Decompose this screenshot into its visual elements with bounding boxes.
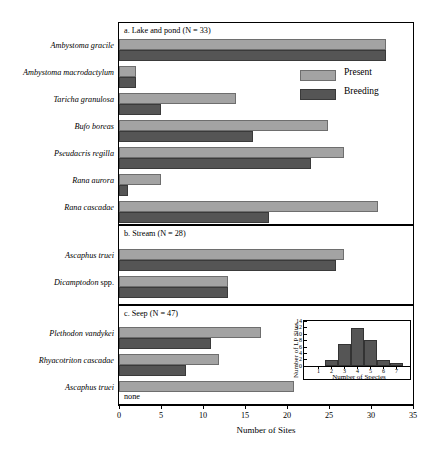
inset-ytickmark-14	[304, 321, 307, 322]
inset-bar-3	[338, 344, 351, 366]
bar-breeding-rana-cascadae	[119, 212, 269, 223]
bar-present-rana-cascadae	[119, 201, 378, 212]
x-tickmark-5	[161, 405, 162, 409]
x-tickmark-30	[371, 405, 372, 409]
x-ticklabel-0: 0	[104, 411, 134, 420]
x-ticklabel-10: 10	[188, 411, 218, 420]
bar-breeding-pseudacris-regilla	[119, 158, 311, 169]
x-ticklabel-20: 20	[272, 411, 302, 420]
inset-bar-5	[364, 340, 377, 366]
bar-breeding-dicamptodon-spp	[119, 287, 228, 298]
x-tickmark-35	[413, 405, 414, 409]
inset-ytickmark-4	[304, 353, 307, 354]
y-label-rhyacotriton-cascadae: Rhyacotriton cascadae	[0, 356, 114, 365]
bar-present-rhyacotriton-cascadae	[119, 354, 219, 365]
x-axis-line	[118, 405, 414, 406]
x-tickmark-0	[119, 405, 120, 409]
x-tickmark-15	[245, 405, 246, 409]
legend-swatch-present	[300, 70, 336, 81]
bar-present-ascaphus-truei-seep	[119, 381, 294, 392]
x-axis-title: Number of Sites	[166, 425, 366, 435]
y-label-ascaphus-truei-seep: Ascaphus truei	[0, 383, 114, 392]
bar-breeding-ascaphus-truei-stream	[119, 260, 336, 271]
y-label-bufo-boreas: Bufo boreas	[0, 122, 114, 131]
x-ticklabel-30: 30	[356, 411, 386, 420]
x-tickmark-20	[287, 405, 288, 409]
inset-y-axis-title: Number of LP Sites	[292, 322, 300, 378]
y-label-ambystoma-gracile: Ambystoma gracile	[0, 41, 114, 50]
bar-present-rana-aurora	[119, 174, 161, 185]
x-ticklabel-15: 15	[230, 411, 260, 420]
bar-present-ambystoma-macrodactylum	[119, 66, 136, 77]
bar-present-ambystoma-gracile	[119, 39, 386, 50]
inset-ytickmark-2	[304, 359, 307, 360]
legend-label-breeding: Breeding	[344, 86, 379, 96]
bar-breeding-rhyacotriton-cascadae	[119, 365, 186, 376]
annotation-none: none	[124, 392, 140, 401]
inset-bar-4	[351, 328, 364, 366]
y-label-ambystoma-macrodactylum: Ambystoma macrodactylum	[0, 68, 114, 77]
bar-breeding-ambystoma-gracile	[119, 50, 386, 61]
bar-breeding-ambystoma-macrodactylum	[119, 77, 136, 88]
x-ticklabel-5: 5	[146, 411, 176, 420]
bar-present-pseudacris-regilla	[119, 147, 344, 158]
panel-c-title: c. Seep (N = 47)	[124, 309, 178, 318]
inset-ytickmark-6	[304, 347, 307, 348]
legend-swatch-breeding	[300, 89, 336, 100]
bar-present-plethodon-vandykei	[119, 327, 261, 338]
bar-breeding-plethodon-vandykei	[119, 338, 211, 349]
y-label-rana-aurora: Rana aurora	[0, 176, 114, 185]
legend-label-present: Present	[344, 67, 372, 77]
inset-ytickmark-12	[304, 327, 307, 328]
inset-histogram: 14 12 10 8 6 4 2 0 1 2	[303, 320, 411, 380]
y-label-pseudacris-regilla: Pseudacris regilla	[0, 149, 114, 158]
figure-amphibian-site-occupancy: a. Lake and pond (N = 33) Ambystoma grac…	[0, 0, 433, 450]
x-ticklabel-35: 35	[398, 411, 428, 420]
bar-present-dicamptodon-spp	[119, 276, 228, 287]
bar-breeding-bufo-boreas	[119, 131, 253, 142]
x-tickmark-10	[203, 405, 204, 409]
bar-present-taricha-granulosa	[119, 93, 236, 104]
inset-ytickmark-8	[304, 340, 307, 341]
x-tickmark-25	[329, 405, 330, 409]
bar-present-bufo-boreas	[119, 120, 328, 131]
y-label-plethodon-vandykei: Plethodon vandykei	[0, 329, 114, 338]
y-label-taricha-granulosa: Taricha granulosa	[0, 95, 114, 104]
x-ticklabel-25: 25	[314, 411, 344, 420]
inset-x-axis-title: Number of Species	[304, 373, 414, 381]
y-label-ascaphus-truei-stream: Ascaphus truei	[0, 251, 114, 260]
y-label-rana-cascadae: Rana cascadae	[0, 203, 114, 212]
y-label-dicamptodon-spp: Dicamptodon spp.	[0, 278, 114, 287]
bar-present-ascaphus-truei-stream	[119, 249, 344, 260]
bar-breeding-taricha-granulosa	[119, 104, 161, 115]
panel-a-title: a. Lake and pond (N = 33)	[124, 26, 211, 35]
panel-b-title: b. Stream (N = 28)	[124, 229, 186, 238]
inset-ytickmark-10	[304, 334, 307, 335]
bar-breeding-rana-aurora	[119, 185, 128, 196]
